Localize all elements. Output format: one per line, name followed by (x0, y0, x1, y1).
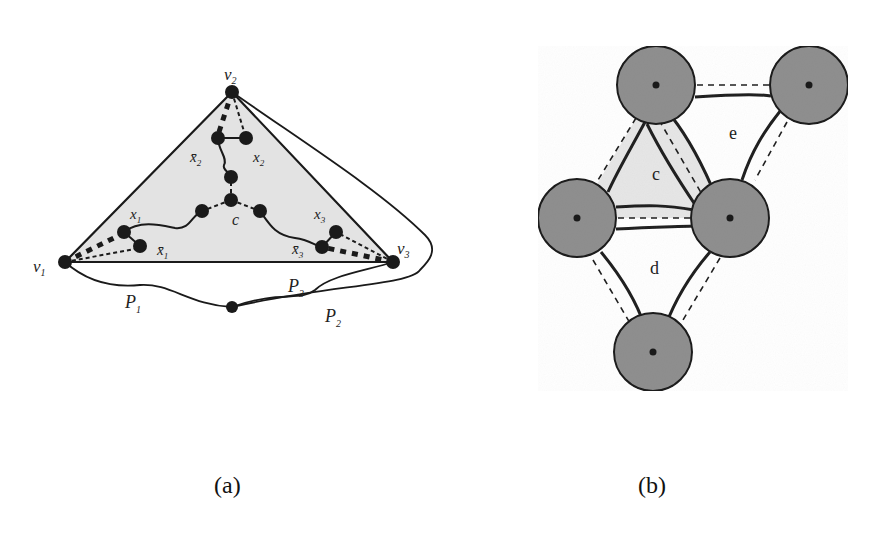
panel-a: v2 v1 v3 c x̄2 x2 x1 x̄1 x3 x̄3 P1 P3 P2 (33, 65, 432, 329)
label-v1: v1 (33, 257, 46, 278)
node-mid-2 (224, 170, 238, 184)
node-x1bar (133, 239, 147, 253)
path-p1 (65, 262, 232, 307)
node-mid-1 (195, 204, 209, 218)
node-c (224, 193, 238, 207)
label-v3: v3 (397, 239, 410, 260)
label-v2: v2 (224, 65, 237, 86)
node-v1 (58, 255, 72, 269)
face-label-e: e (729, 123, 737, 143)
node-v2 (225, 85, 239, 99)
node-x1 (117, 225, 131, 239)
label-p2: P2 (324, 306, 341, 329)
node-bottom (226, 301, 238, 313)
node-x3 (329, 225, 343, 239)
figure: v2 v1 v3 c x̄2 x2 x1 x̄1 x3 x̄3 P1 P3 P2 (0, 0, 881, 534)
label-c: c (232, 211, 239, 228)
disks (538, 46, 848, 391)
node-mid-3 (253, 204, 267, 218)
node-x3bar (315, 240, 329, 254)
node-x2 (239, 131, 253, 145)
caption-b: (b) (638, 472, 666, 499)
caption-a: (a) (214, 472, 241, 499)
label-p3: P3 (287, 276, 304, 299)
node-x2bar (211, 131, 225, 145)
diagram-canvas: v2 v1 v3 c x̄2 x2 x1 x̄1 x3 x̄3 P1 P3 P2 (0, 0, 881, 534)
panel-b: c d e (538, 46, 848, 391)
face-label-c: c (652, 164, 660, 184)
label-p1: P1 (124, 292, 141, 315)
face-label-d: d (650, 258, 659, 278)
